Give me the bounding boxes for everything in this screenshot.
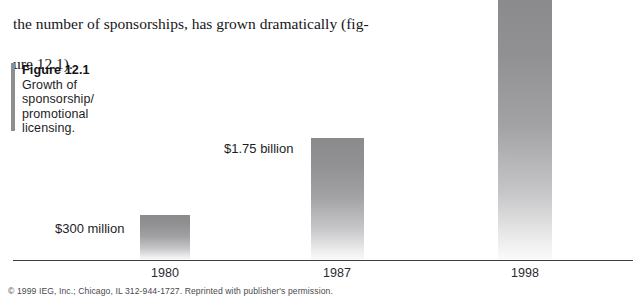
x-axis-line bbox=[13, 260, 633, 261]
value-label-1980: $300 million bbox=[55, 221, 124, 236]
bar-1998 bbox=[498, 0, 552, 260]
bar-fill bbox=[498, 0, 552, 260]
x-tick-label-1987: 1987 bbox=[297, 266, 377, 280]
bar-1987 bbox=[311, 138, 364, 260]
figure-page: the number of sponsorships, has grown dr… bbox=[0, 0, 642, 306]
bar-chart: $300 million $1.75 billion 1980 1987 199… bbox=[0, 0, 642, 306]
bar-1980 bbox=[140, 215, 190, 260]
value-label-1987: $1.75 billion bbox=[224, 141, 293, 156]
x-tick-label-1980: 1980 bbox=[125, 266, 205, 280]
bar-fill bbox=[311, 138, 364, 260]
copyright-credit: © 1999 IEG, Inc.; Chicago, IL 312-944-17… bbox=[8, 286, 333, 296]
bar-fill bbox=[140, 215, 190, 260]
x-tick-label-1998: 1998 bbox=[485, 266, 565, 280]
